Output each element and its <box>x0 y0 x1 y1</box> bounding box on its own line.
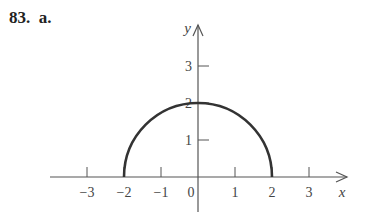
x-tick-label: −3 <box>80 185 95 200</box>
y-tick-label: 3 <box>185 59 192 74</box>
x-tick-label: 2 <box>269 185 276 200</box>
origin-label: 0 <box>188 185 195 200</box>
x-tick-label: 1 <box>232 185 239 200</box>
x-tick-label: −2 <box>117 185 132 200</box>
y-axis-label: y <box>182 20 191 36</box>
x-tick-label: 3 <box>306 185 313 200</box>
semicircle-chart: −3−2−11230123xy <box>0 0 365 217</box>
x-tick-label: −1 <box>154 185 169 200</box>
x-axis-label: x <box>338 184 346 200</box>
y-tick-label: 1 <box>185 133 192 148</box>
